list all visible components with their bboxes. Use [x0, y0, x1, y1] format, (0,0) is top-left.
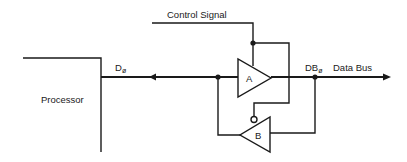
buffer-a-triangle — [238, 59, 271, 97]
buffer-a-label: A — [246, 73, 253, 84]
buffer-b-output-line — [218, 77, 240, 135]
data-bus-label: Data Bus — [333, 62, 372, 73]
bidirectional-bus-buffer-diagram: Control Signal Processor Dø DBø Data Bus… — [0, 0, 407, 162]
bus-data-label: DBø — [305, 62, 323, 74]
junction-dot-control — [250, 40, 255, 45]
processor-data-label: Dø — [115, 62, 127, 74]
control-signal-label: Control Signal — [167, 9, 227, 20]
buffer-b-label: B — [255, 130, 261, 141]
buffer-b-input-line — [270, 77, 315, 133]
processor-box — [23, 58, 101, 152]
junction-dot-processor-side — [215, 74, 220, 79]
arrow-right-icon — [383, 74, 391, 81]
junction-dot-bus-side — [312, 74, 317, 79]
arrow-left-icon — [149, 74, 156, 81]
inverter-bubble-icon — [251, 117, 257, 123]
processor-label: Processor — [41, 94, 84, 105]
